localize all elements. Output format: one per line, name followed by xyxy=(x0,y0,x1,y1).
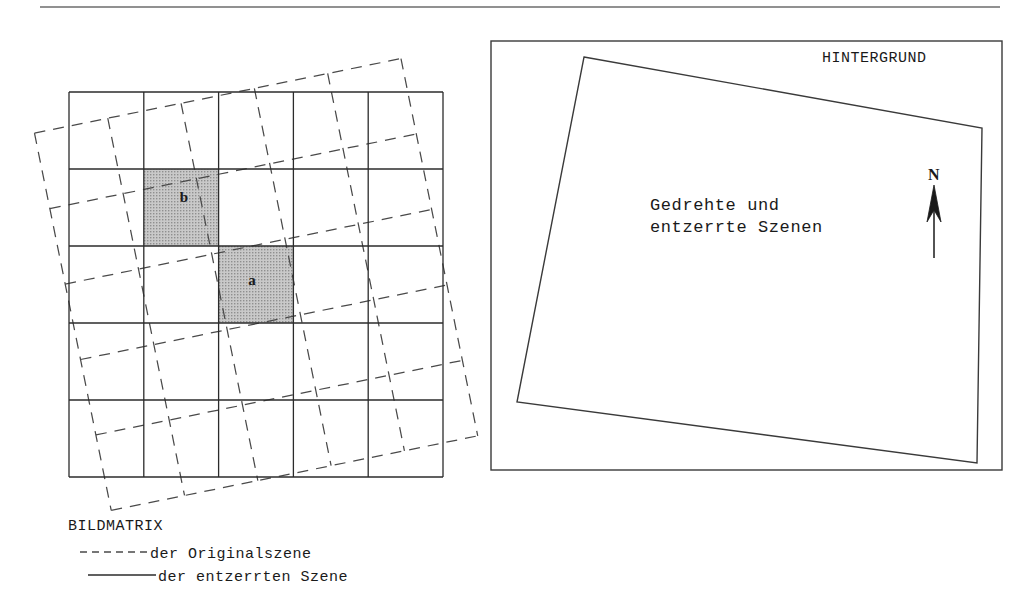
scene-caption-line2: entzerrte Szenen xyxy=(650,218,823,237)
diagram-canvas: b a BILDMATRIX der Originalszene der ent… xyxy=(0,0,1035,603)
cell-label-b: b xyxy=(180,189,188,205)
legend: BILDMATRIX der Originalszene der entzerr… xyxy=(68,518,348,586)
shaded-cell-a xyxy=(219,246,294,323)
panel-frame xyxy=(491,41,1002,470)
north-indicator: N xyxy=(927,166,941,258)
scene-caption-line1: Gedrehte und xyxy=(650,196,780,215)
legend-label-rectified: der entzerrten Szene xyxy=(158,569,348,586)
legend-title: BILDMATRIX xyxy=(68,518,163,535)
bildmatrix-panel: b a BILDMATRIX der Originalszene der ent… xyxy=(34,59,477,586)
cell-label-a: a xyxy=(248,272,256,288)
panel-title: HINTERGRUND xyxy=(822,50,927,67)
legend-label-original: der Originalszene xyxy=(150,546,312,563)
north-label: N xyxy=(928,166,940,183)
hintergrund-panel: HINTERGRUND Gedrehte und entzerrte Szene… xyxy=(491,41,1002,470)
rotated-scene-outline xyxy=(517,57,982,463)
figure-root: b a BILDMATRIX der Originalszene der ent… xyxy=(0,0,1035,603)
